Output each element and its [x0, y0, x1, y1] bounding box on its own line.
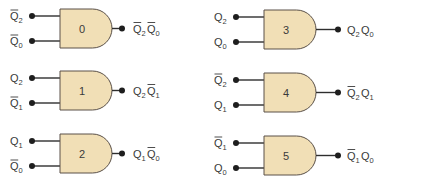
input-label-1: Q1 — [10, 97, 23, 112]
output-label: Q2Q1 — [347, 87, 374, 102]
input-label-0-subscript: 1 — [19, 141, 23, 150]
and-gate-body — [264, 10, 316, 49]
output-literal-0: Q2 — [133, 85, 146, 100]
and-gate-4: Q2Q14Q2Q1 — [214, 73, 374, 114]
output-terminal-dot — [335, 27, 341, 33]
output-label: Q2Q0 — [133, 23, 160, 38]
gate-number: 3 — [283, 24, 289, 36]
output-literal-1: Q1 — [147, 85, 160, 100]
output-literal-1-subscript: 1 — [156, 91, 160, 100]
output-literal-1: Q1 — [361, 87, 374, 102]
input-terminal-dot — [233, 39, 239, 45]
input-terminal-dot — [233, 102, 239, 108]
output-terminal-dot — [335, 153, 341, 159]
input-terminal-dot — [233, 14, 239, 20]
output-terminal-dot — [119, 26, 125, 32]
input-label-1: Q0 — [10, 35, 23, 50]
output-literal-1-subscript: 0 — [370, 156, 374, 165]
gate-number: 5 — [283, 150, 289, 162]
input-label-0-subscript: 2 — [223, 80, 227, 89]
and-gate-5: Q1Q05Q1Q0 — [214, 136, 374, 177]
and-gate-body — [60, 134, 112, 173]
output-literal-0: Q2 — [347, 87, 360, 102]
output-terminal-dot — [119, 88, 125, 94]
input-label-1-subscript: 0 — [223, 42, 227, 51]
output-literal-0-subscript: 1 — [356, 156, 360, 165]
input-label-0-subscript: 1 — [223, 143, 227, 152]
input-terminal-dot — [29, 13, 35, 19]
and-gate-3: Q2Q03Q2Q0 — [214, 10, 374, 51]
gate-number: 0 — [79, 23, 85, 35]
and-gate-1: Q2Q11Q2Q1 — [10, 71, 160, 112]
output-label: Q2Q1 — [133, 85, 160, 100]
input-label-0: Q1 — [10, 135, 23, 150]
output-literal-0-subscript: 1 — [142, 154, 146, 163]
input-label-1: Q0 — [10, 160, 23, 175]
input-terminal-dot — [233, 77, 239, 83]
input-label-0-subscript: 2 — [19, 16, 23, 25]
input-label-0: Q2 — [10, 10, 23, 25]
and-gate-2: Q1Q02Q1Q0 — [10, 134, 160, 175]
output-literal-0-subscript: 2 — [142, 91, 146, 100]
output-literal-0: Q1 — [133, 148, 146, 163]
input-label-0: Q2 — [214, 74, 227, 89]
output-literal-0-subscript: 2 — [356, 30, 360, 39]
output-literal-1-subscript: 1 — [370, 93, 374, 102]
input-label-1-subscript: 1 — [223, 105, 227, 114]
input-label-1: Q0 — [214, 162, 227, 177]
output-literal-1: Q0 — [147, 148, 160, 163]
output-literal-0: Q2 — [133, 23, 146, 38]
output-literal-1-subscript: 0 — [370, 30, 374, 39]
input-label-1: Q0 — [214, 36, 227, 51]
gate-number: 4 — [283, 87, 289, 99]
input-terminal-dot — [233, 165, 239, 171]
output-label: Q1Q0 — [347, 150, 374, 165]
output-literal-1-subscript: 0 — [156, 29, 160, 38]
and-gate-body — [60, 71, 112, 110]
and-gate-body — [264, 73, 316, 112]
input-label-0-subscript: 2 — [223, 17, 227, 26]
input-terminal-dot — [29, 38, 35, 44]
input-terminal-dot — [29, 100, 35, 106]
input-label-0: Q2 — [214, 11, 227, 26]
input-label-1-subscript: 1 — [19, 103, 23, 112]
input-terminal-dot — [29, 138, 35, 144]
output-terminal-dot — [119, 151, 125, 157]
output-literal-1: Q0 — [361, 24, 374, 39]
output-literal-0-subscript: 2 — [356, 93, 360, 102]
and-gate-decoder-diagram: Q2Q00Q2Q0Q2Q11Q2Q1Q1Q02Q1Q0Q2Q03Q2Q0Q2Q1… — [0, 0, 421, 183]
and-gate-body — [264, 136, 316, 175]
input-label-0-subscript: 2 — [19, 78, 23, 87]
output-literal-1-subscript: 0 — [156, 154, 160, 163]
input-terminal-dot — [29, 163, 35, 169]
output-literal-0: Q2 — [347, 24, 360, 39]
input-label-1-subscript: 0 — [19, 166, 23, 175]
input-label-0: Q1 — [214, 137, 227, 152]
input-label-0: Q2 — [10, 72, 23, 87]
input-label-1-subscript: 0 — [223, 168, 227, 177]
output-literal-0-subscript: 2 — [142, 29, 146, 38]
output-label: Q1Q0 — [133, 148, 160, 163]
output-literal-1: Q0 — [147, 23, 160, 38]
input-terminal-dot — [29, 75, 35, 81]
input-terminal-dot — [233, 140, 239, 146]
output-literal-1: Q0 — [361, 150, 374, 165]
and-gate-0: Q2Q00Q2Q0 — [10, 9, 160, 50]
output-terminal-dot — [335, 90, 341, 96]
output-label: Q2Q0 — [347, 24, 374, 39]
and-gate-body — [60, 9, 112, 48]
input-label-1-subscript: 0 — [19, 41, 23, 50]
gate-number: 2 — [79, 148, 85, 160]
gate-number: 1 — [79, 85, 85, 97]
output-literal-0: Q1 — [347, 150, 360, 165]
input-label-1: Q1 — [214, 99, 227, 114]
